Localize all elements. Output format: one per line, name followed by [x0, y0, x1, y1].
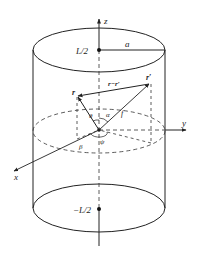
top-point-label: L/2: [75, 46, 89, 56]
cylinder-diagram: z y x L/2 −L/2 a r r′ r−r′ α θ f β ψ: [0, 0, 197, 256]
angle-psi-label: ψ: [100, 138, 105, 146]
vector-r-label: r: [72, 88, 76, 97]
r-projection-base: [77, 130, 99, 139]
bottom-point-label: −L/2: [73, 205, 92, 215]
vector-r-prime-label: r′: [146, 73, 151, 82]
angle-alpha-label: α: [106, 111, 110, 119]
y-axis-label: y: [181, 118, 186, 128]
bottom-point: [97, 207, 101, 211]
top-point: [97, 48, 101, 52]
r-prime-projection-base: [99, 130, 151, 143]
angle-beta-label: β: [78, 143, 83, 151]
difference-vector-label: r−r′: [108, 80, 120, 88]
z-axis-label: z: [103, 16, 108, 26]
angle-theta-label: θ: [89, 112, 93, 120]
angle-theta-arc: [93, 120, 99, 121]
x-axis-label: x: [13, 172, 18, 182]
radius-label: a: [125, 39, 130, 49]
x-axis: [14, 130, 99, 171]
